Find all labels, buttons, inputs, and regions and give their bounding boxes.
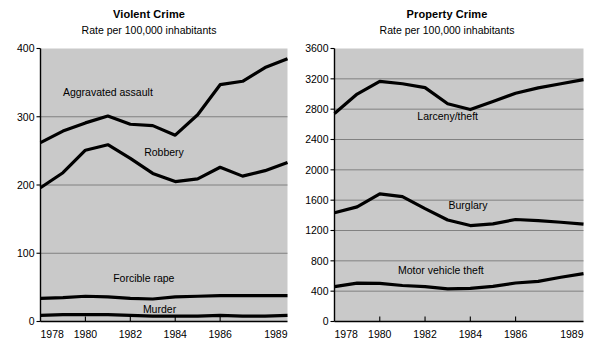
y-tick-label: 1200 <box>305 224 329 236</box>
chart-violent-crime: 0100200300400197819801982198419861989Agg… <box>0 0 298 359</box>
y-tick-label: 1600 <box>305 194 329 206</box>
x-tick-label: 1982 <box>413 328 437 340</box>
series-label: Motor vehicle theft <box>398 264 484 276</box>
y-tick-label: 3200 <box>305 73 329 85</box>
y-tick-label: 2400 <box>305 133 329 145</box>
y-tick-label: 2000 <box>305 164 329 176</box>
series-label: Robbery <box>144 146 184 158</box>
x-tick-label: 1986 <box>208 328 232 340</box>
crime-rate-figure: Violent Crime Rate per 100,000 inhabitan… <box>0 0 596 359</box>
x-tick-label: 1989 <box>560 328 584 340</box>
y-tick-label: 400 <box>311 285 329 297</box>
x-tick-label: 1980 <box>74 328 98 340</box>
y-tick-label: 200 <box>17 179 35 191</box>
y-tick-label: 400 <box>17 42 35 54</box>
panel-property-crime: Property Crime Rate per 100,000 inhabita… <box>298 0 596 359</box>
x-tick-label: 1980 <box>368 328 392 340</box>
y-tick-label: 800 <box>311 255 329 267</box>
y-tick-label: 100 <box>17 247 35 259</box>
x-tick-label: 1978 <box>335 328 359 340</box>
series-label: Burglary <box>448 199 488 211</box>
x-tick-label: 1982 <box>119 328 143 340</box>
y-tick-label: 3600 <box>305 42 329 54</box>
x-tick-label: 1986 <box>504 328 528 340</box>
series-label: Aggravated assault <box>63 86 153 98</box>
y-tick-label: 300 <box>17 111 35 123</box>
y-tick-label: 2800 <box>305 103 329 115</box>
series-label: Murder <box>143 303 177 315</box>
x-tick-label: 1984 <box>459 328 483 340</box>
x-tick-label: 1984 <box>164 328 188 340</box>
series-line <box>41 315 288 316</box>
y-tick-label: 0 <box>29 315 35 327</box>
chart-property-crime: 0400800120016002000240028003200360019781… <box>298 0 596 359</box>
x-tick-label: 1989 <box>264 328 288 340</box>
panel-violent-crime: Violent Crime Rate per 100,000 inhabitan… <box>0 0 298 359</box>
series-label: Forcible rape <box>113 272 174 284</box>
series-label: Larceny/theft <box>417 110 478 122</box>
x-tick-label: 1978 <box>41 328 65 340</box>
y-tick-label: 0 <box>323 315 329 327</box>
